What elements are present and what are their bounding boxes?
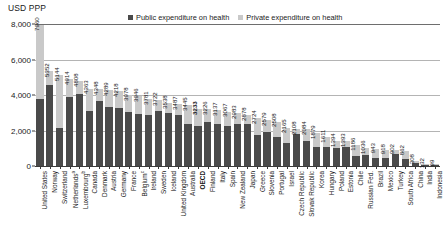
bar-stack[interactable]: 3722 (155, 100, 162, 166)
bar-stack[interactable]: 3781 (145, 99, 152, 166)
bar-value-label: 4348 (93, 81, 99, 95)
bar-value-label: 2579 (261, 112, 267, 126)
bar-value-label: 2724 (251, 110, 257, 124)
y-tick-label-8000: 8,000 (11, 20, 31, 29)
bar-segment-public (105, 107, 112, 166)
y-axis-unit-label: USD PPP (8, 3, 46, 13)
bar-stack[interactable]: 3233 (194, 109, 201, 166)
x-axis-category: Turkey (391, 166, 401, 250)
bar-stack[interactable]: 3946 (135, 96, 142, 166)
bar-value-label: 308 (409, 154, 415, 164)
bar-value-label: 1879 (310, 125, 316, 139)
bar-segment-public (333, 148, 340, 166)
bar-value-label: 4363 (83, 81, 89, 95)
bar-column[interactable]: 3067 (223, 24, 233, 166)
x-axis-category: Chile (351, 166, 361, 250)
bar-column[interactable]: 862 (400, 24, 410, 166)
bar-segment-public (273, 137, 280, 166)
bar-column[interactable]: 5144 (55, 24, 65, 166)
bar-segment-public (36, 99, 43, 166)
x-tick-mark (287, 166, 288, 169)
x-axis-label: Indonesia (437, 171, 443, 199)
x-axis-category: Finland (203, 166, 213, 250)
x-tick-mark (435, 166, 436, 169)
bar-value-label: 1394 (330, 133, 336, 147)
y-tick-label-0: 0 (27, 162, 31, 171)
bar-column[interactable]: 2165 (282, 24, 292, 166)
bar-stack[interactable]: 4348 (96, 89, 103, 166)
bar-stack[interactable]: 3538 (165, 103, 172, 166)
x-axis-category: Russian Fed. (361, 166, 371, 250)
bar-column[interactable]: 2108 (292, 24, 302, 166)
x-axis-category: Brazil (371, 166, 381, 250)
bar-column[interactable]: 132 (420, 24, 430, 166)
bar-column[interactable]: 2508 (272, 24, 282, 166)
bar-stack[interactable]: 2983 (234, 113, 241, 166)
x-tick-mark (50, 166, 51, 169)
bar-stack[interactable]: 3137 (214, 110, 221, 166)
bar-value-label: 2878 (241, 107, 247, 121)
bar-segment-public (293, 134, 300, 166)
x-axis-category: New Zealand (233, 166, 243, 250)
bar-value-label: 5144 (54, 67, 60, 81)
bar-value-label: 7960 (34, 17, 40, 31)
bar-value-label: 3445 (182, 97, 188, 111)
bar-column[interactable]: 2084 (302, 24, 312, 166)
bar-segment-public (115, 108, 122, 166)
bar-value-label: 4289 (103, 82, 109, 96)
bar-stack[interactable]: 3067 (224, 112, 231, 166)
bar-stack[interactable]: 5144 (56, 75, 63, 166)
bar-segment-public (263, 132, 270, 166)
bar-column[interactable]: 3137 (213, 24, 223, 166)
x-tick-mark (257, 166, 258, 169)
x-tick-mark (386, 166, 387, 169)
bar-stack[interactable]: 3487 (175, 104, 182, 166)
bar-segment-public (135, 114, 142, 166)
bar-segment-public (372, 158, 379, 166)
bar-column[interactable]: 1879 (312, 24, 322, 166)
bar-column[interactable]: 3233 (193, 24, 203, 166)
bar-column[interactable]: 3445 (183, 24, 193, 166)
bar-value-label: 3538 (162, 95, 168, 109)
bar-stack[interactable]: 4914 (66, 79, 73, 166)
bar-value-label: 4808 (73, 73, 79, 87)
x-tick-mark (425, 166, 426, 169)
bar-stack[interactable]: 4289 (105, 90, 112, 166)
x-tick-mark (178, 166, 179, 169)
bar-column[interactable]: 99 (430, 24, 440, 166)
x-tick-mark (395, 166, 396, 169)
bar-segment-public (46, 85, 53, 166)
x-axis-category: Germany (114, 166, 124, 250)
bar-stack[interactable]: 7960 (36, 25, 43, 166)
bar-column[interactable]: 3487 (173, 24, 183, 166)
bar-column[interactable]: 7960 (35, 24, 45, 166)
x-tick-mark (89, 166, 90, 169)
bar-column[interactable]: 4808 (75, 24, 85, 166)
x-tick-mark (70, 166, 71, 169)
bar-stack[interactable]: 3978 (125, 95, 132, 166)
bar-column[interactable]: 3226 (203, 24, 213, 166)
bar-column[interactable]: 5352 (45, 24, 55, 166)
bar-stack[interactable]: 4363 (86, 89, 93, 166)
x-tick-mark (40, 166, 41, 169)
bar-column[interactable]: 2579 (262, 24, 272, 166)
bar-segment-public (224, 126, 231, 166)
bar-column[interactable]: 308 (410, 24, 420, 166)
x-axis-category: Slovak Republic (302, 166, 312, 250)
plot-area: 02,0004,0006,0008,000 796053525144491448… (35, 24, 440, 166)
bar-segment-public (244, 124, 251, 166)
bar-stack[interactable]: 5352 (46, 71, 53, 166)
x-tick-mark (267, 166, 268, 169)
bar-segment-public (184, 124, 191, 166)
bar-stack[interactable]: 3226 (204, 109, 211, 166)
bar-stack[interactable]: 2579 (263, 120, 270, 166)
bar-segment-public (313, 147, 320, 166)
x-tick-mark (336, 166, 337, 169)
bar-column[interactable]: 2983 (233, 24, 243, 166)
bar-column[interactable]: 2724 (252, 24, 262, 166)
bar-column[interactable]: 4363 (84, 24, 94, 166)
bar-column[interactable]: 2878 (242, 24, 252, 166)
bar-stack[interactable]: 4218 (115, 91, 122, 166)
bar-value-label: 862 (399, 145, 405, 155)
bar-column[interactable]: 4914 (65, 24, 75, 166)
